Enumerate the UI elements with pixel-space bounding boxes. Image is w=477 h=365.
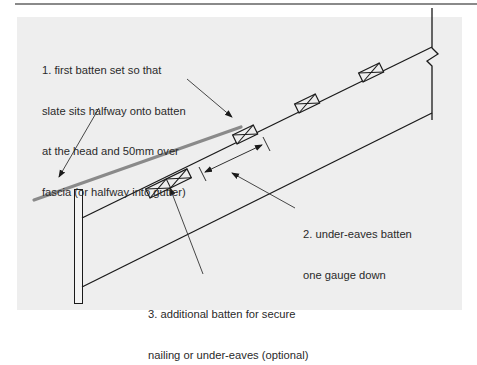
label-first-batten: 1. first batten set so that slate sits h… (42, 37, 186, 213)
label-under-eaves-line-2: one gauge down (303, 269, 412, 283)
label-first-batten-line-4: fascia (or halfway into gutter) (42, 186, 186, 200)
label-first-batten-line-2: slate sits halfway onto batten (42, 105, 186, 119)
batten-upper-2 (359, 63, 384, 82)
label-additional-line-2: nailing or under-eaves (optional) (148, 349, 308, 363)
leader-arrow-1-batten (187, 79, 232, 117)
wall-line (427, 8, 438, 120)
label-under-eaves-line-1: 2. under-eaves batten (303, 228, 412, 242)
label-first-batten-line-3: at the head and 50mm over (42, 145, 186, 159)
label-additional-batten: 3. additional batten for secure nailing … (148, 281, 308, 365)
label-first-batten-line-1: 1. first batten set so that (42, 64, 186, 78)
leader-arrow-2 (232, 173, 295, 208)
label-additional-line-1: 3. additional batten for secure (148, 308, 308, 322)
batten-upper-1 (295, 94, 320, 113)
label-under-eaves-batten: 2. under-eaves batten one gauge down (303, 201, 412, 296)
